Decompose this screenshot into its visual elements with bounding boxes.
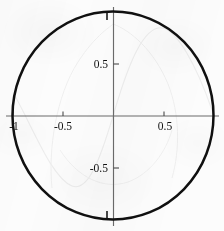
y-tick-label-plus-half: 0.5 xyxy=(94,58,109,70)
x-tick-label-minus-one: -1 xyxy=(9,120,19,132)
ghost-arc-lower xyxy=(60,130,172,184)
unit-circle-figure: -1 -0.5 0.5 0.5 -0.5 xyxy=(0,0,224,231)
y-tick-label-minus-half: -0.5 xyxy=(90,162,108,174)
plot-canvas: -1 -0.5 0.5 0.5 -0.5 xyxy=(0,0,224,231)
x-tick-label-plus-half: 0.5 xyxy=(158,120,173,132)
ghost-arc-right xyxy=(113,24,178,178)
x-tick-label-minus-half: -0.5 xyxy=(54,120,72,132)
axes-group xyxy=(6,7,219,226)
